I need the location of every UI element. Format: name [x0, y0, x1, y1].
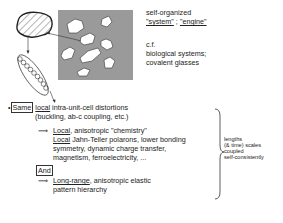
polarons-text: Jahn-Teller polarons, lower bonding: [70, 135, 185, 144]
hatched-region: [17, 12, 52, 37]
right-brace: [215, 109, 224, 199]
system-engine-line: "system" ; "engine": [146, 18, 207, 26]
local-word-2: Local: [53, 135, 70, 144]
local-word: local: [35, 103, 50, 112]
implication-arrow-2: ⟹: [38, 177, 48, 185]
and-box-line: And: [36, 167, 53, 175]
local-word-1: Local: [53, 126, 70, 135]
buckling-line: (buckling, ab-c coupling, etc.): [35, 113, 128, 121]
elastic-text: , anisotropic elastic: [90, 176, 151, 185]
and-box: And: [36, 165, 53, 176]
long-range-word: Long-range: [53, 176, 90, 185]
brace-note-4: self-consistently: [224, 154, 264, 161]
magnetism-line: magnetism, ferroelectricity, ...: [53, 154, 146, 162]
pattern-hierarchy-line: pattern hierarchy: [53, 186, 107, 194]
system-word: "system": [146, 17, 174, 26]
distortions-text: intra-unit-cell distortions: [50, 103, 128, 112]
engine-word: "engine": [180, 17, 207, 26]
covalent-glasses-label: covalent glasses: [146, 59, 199, 67]
chemistry-text: , anisotropic "chemistry": [70, 126, 147, 135]
same-box: Same: [11, 102, 34, 113]
gray-matrix-with-grains: [58, 10, 133, 80]
implication-arrow-1: ⟹: [38, 127, 48, 135]
